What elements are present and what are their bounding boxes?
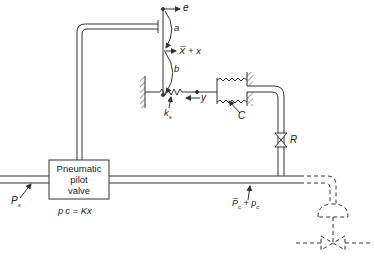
supply-pressure-label: Ps (11, 196, 21, 208)
lever-arc-a (165, 11, 172, 48)
pilot-valve-line-1: Pneumatic (57, 163, 102, 174)
flapper-lever (162, 8, 165, 97)
output-pressure-label: P̅c + pc (232, 199, 259, 210)
pilot-valve-line-3: valve (68, 185, 90, 196)
y-label: y (201, 93, 206, 103)
lever-arc-b (165, 52, 173, 93)
spring-anchor-wall (140, 76, 145, 108)
pilot-valve-label: Pneumatic pilot valve (49, 160, 109, 199)
spring-ks (145, 89, 197, 95)
bellows-anchor-wall (247, 72, 253, 86)
error-label: e (183, 3, 189, 13)
pilot-valve-line-2: pilot (70, 174, 87, 185)
restriction-valve-r (275, 133, 287, 147)
restriction-r-label: R (290, 135, 297, 145)
pilot-equation: p c = Kx (58, 206, 92, 216)
supply-pipe (0, 176, 49, 183)
actuator-line (296, 176, 371, 250)
output-pipe (109, 176, 300, 183)
nozzle-pipe (77, 20, 158, 160)
lever-a-label: a (174, 23, 179, 33)
lever-b-label: b (174, 64, 179, 74)
spring-label: ks (164, 108, 172, 120)
flapper-motion-label: X̅ + x (179, 46, 201, 56)
schematic-canvas (0, 0, 375, 263)
bellows-c (217, 78, 247, 104)
bellows-c-label: C (238, 111, 245, 121)
